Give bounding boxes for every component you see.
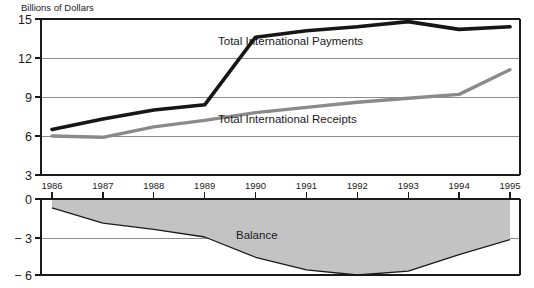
series-label-balance: Balance (236, 229, 278, 241)
ytick-label-12: 12 (18, 52, 32, 66)
xtick-label-1991: 1991 (296, 180, 317, 191)
ytick-label-6: 6 (25, 130, 32, 144)
xtick-label-1992: 1992 (347, 180, 368, 191)
xtick-label-1993: 1993 (398, 180, 419, 191)
axis-title: Billions of Dollars (21, 2, 94, 13)
xtick-label-1995: 1995 (499, 180, 520, 191)
series-label-receipts: Total International Receipts (218, 113, 357, 125)
ytick-label-3: 3 (25, 169, 32, 183)
chart-container: Billions of Dollars 15 12 9 6 3 (0, 0, 534, 288)
ytick-label-15: 15 (18, 13, 32, 27)
xtick-label-1990: 1990 (245, 180, 266, 191)
ytick-label-9: 9 (25, 91, 32, 105)
ytick-label-neg6: − 6 (14, 269, 32, 283)
xtick-label-1994: 1994 (449, 180, 470, 191)
xtick-label-1986: 1986 (41, 180, 62, 191)
xtick-label-1988: 1988 (143, 180, 164, 191)
xtick-label-1989: 1989 (194, 180, 215, 191)
series-label-payments: Total International Payments (218, 35, 363, 47)
xtick-label-1987: 1987 (92, 180, 113, 191)
ytick-label-neg3: − 3 (14, 232, 32, 246)
ytick-label-0: 0 (25, 193, 32, 207)
chart-canvas: Billions of Dollars 15 12 9 6 3 (0, 0, 534, 288)
